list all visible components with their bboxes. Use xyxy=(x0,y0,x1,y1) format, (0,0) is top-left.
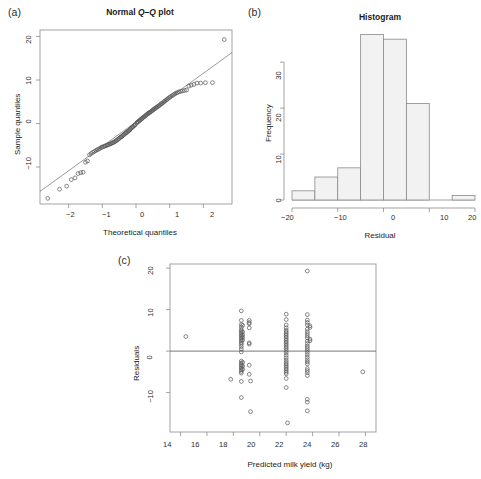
histogram-bar xyxy=(384,39,407,200)
histogram-bar xyxy=(338,168,361,200)
panel-c-points xyxy=(184,269,365,425)
panel-a-plot-area xyxy=(0,0,250,250)
panel-a-points xyxy=(46,38,226,201)
panel-a-frame xyxy=(40,30,232,204)
panel-b-bars xyxy=(292,35,475,200)
panel-b-plot-area xyxy=(240,0,481,250)
histogram-bar xyxy=(406,104,429,200)
panel-c-plot-area xyxy=(100,250,481,479)
panel-a-qq-plot: (a) Normal Q–Q plot Sample quantiles −10… xyxy=(0,0,250,250)
histogram-bar xyxy=(292,191,315,200)
panel-c-frame xyxy=(170,264,376,432)
histogram-bar xyxy=(315,177,338,200)
panel-c-residual-plot: (c) Residuals −10 0 10 20 14 16 18 20 22… xyxy=(100,250,481,479)
histogram-bar xyxy=(361,35,384,200)
panel-b-histogram: (b) Histogram Frequency 0 10 20 30 −20 −… xyxy=(240,0,481,250)
histogram-bar xyxy=(452,195,475,200)
